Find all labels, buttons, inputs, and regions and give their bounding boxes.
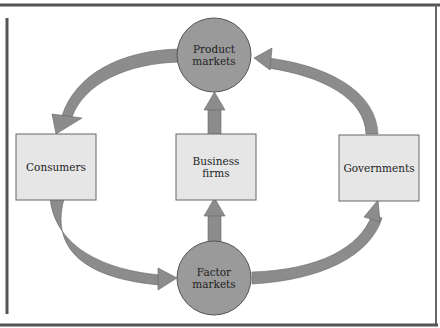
arrow-governments-to-product xyxy=(254,48,378,134)
product-markets-label-line1: Product xyxy=(193,43,235,55)
business-firms-label-line2: firms xyxy=(202,167,229,179)
arrow-product-to-consumers xyxy=(52,49,181,134)
arrow-factor-to-governments xyxy=(252,200,382,284)
factor-markets-label-line1: Factor xyxy=(197,266,231,278)
product-markets-label-line2: markets xyxy=(192,55,235,67)
arrow-consumers-to-factor xyxy=(50,199,177,290)
business-firms-label-line1: Business xyxy=(193,155,240,167)
consumers-label: Consumers xyxy=(16,134,96,200)
business-firms-label: Business firms xyxy=(176,134,256,200)
governments-label: Governments xyxy=(339,135,419,201)
factor-markets-label-line2: markets xyxy=(192,278,235,290)
diagram-canvas: Product markets Factor markets Consumers… xyxy=(0,0,440,328)
product-markets-label: Product markets xyxy=(177,35,251,75)
arrow-factor-to-business xyxy=(204,198,225,244)
factor-markets-label: Factor markets xyxy=(177,258,251,298)
arrow-business-to-product xyxy=(204,92,225,135)
